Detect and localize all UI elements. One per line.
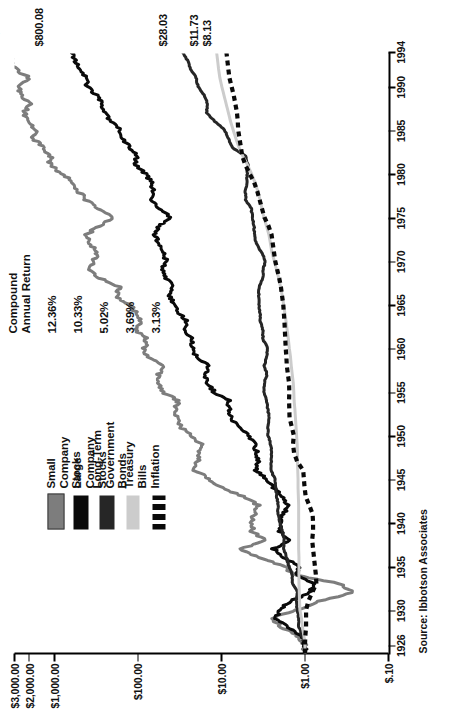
series-line [226,53,316,653]
y-tick-label: $.10 [382,663,394,725]
legend-swatch [47,493,64,529]
y-tick [304,653,306,661]
legend-item-return: 12.36% [45,295,57,333]
legend-header: Compound Annual Return [6,254,32,333]
series-curves [14,53,386,653]
y-tick [387,653,389,661]
source-note: Source: Ibbotson Associates [416,509,428,653]
series-line [14,53,352,653]
y-tick-label-text: $100.00 [131,663,143,700]
growth-of-dollar-chart: $3,000.00$2,000.00$1,000.00$100.00$10.00… [0,0,451,725]
x-tick-label: 1990 [394,76,406,99]
x-tick-label: 1985 [394,119,406,142]
y-tick [53,653,55,661]
x-tick-label: 1930 [394,599,406,622]
y-tick-label: $100.00 [131,663,143,725]
legend-header-line2: Annual Return [19,254,32,333]
plot-area [14,53,386,653]
y-tick-label: $10.00 [215,663,227,725]
endpoint-value-label: $8.13 [200,19,212,46]
y-tick-label-text: $10.00 [215,663,227,694]
x-tick-label: 1940 [394,512,406,535]
legend-item-return: 10.33% [71,295,83,333]
legend-swatch [73,495,88,529]
legend-header-line1: Compound [6,254,19,333]
y-tick [220,653,222,661]
legend-label-line: Inflation [148,444,161,488]
legend-item-return: 3.69% [123,301,135,333]
x-tick-label: 1950 [394,425,406,448]
x-tick-label: 1955 [394,381,406,404]
y-tick [28,653,30,661]
x-tick-label: 1980 [394,163,406,186]
endpoint-value-label: $11.73 [187,14,199,46]
legend-label-line: Treasury Bills [122,441,147,488]
y-tick-label: $2,000.00 [23,663,35,725]
y-tick-label-text: $2,000.00 [23,663,35,708]
y-tick [13,653,15,661]
legend-item-return: 3.13% [149,301,161,333]
legend-item-return: 5.02% [97,301,109,333]
y-tick-label: $1,000.00 [48,663,60,725]
x-tick-label: 1945 [394,468,406,491]
y-tick-label-text: $1,000.00 [48,663,60,708]
legend-swatch [99,495,114,529]
legend-item-label: Treasury Bills [122,441,147,488]
x-tick-label: 1960 [394,337,406,360]
y-tick [137,653,139,661]
x-tick-label: 1975 [394,207,406,230]
legend-swatch [126,495,139,529]
y-tick-label-text: $.10 [382,663,394,683]
endpoint-value-label: $800.08 [32,8,44,46]
x-tick-label: 1935 [394,555,406,578]
y-tick-label: $3,000.00 [8,663,20,725]
x-axis-line [388,52,390,654]
x-tick-label: 1965 [394,294,406,317]
legend-item-label: Inflation [148,444,161,488]
legend-label-line: Long-Term [90,421,103,488]
legend-swatch [152,495,165,529]
x-tick-label: 1926 [394,634,406,657]
x-tick-label: 1970 [394,250,406,273]
y-tick-label-text: $3,000.00 [8,663,20,708]
rotated-figure-wrapper: $3,000.00$2,000.00$1,000.00$100.00$10.00… [0,0,451,725]
y-tick-label-text: $1.00 [298,663,310,688]
y-tick-label: $1.00 [298,663,310,725]
endpoint-value-label: $28.03 [156,14,168,46]
x-tick-label: 1994 [394,41,406,64]
